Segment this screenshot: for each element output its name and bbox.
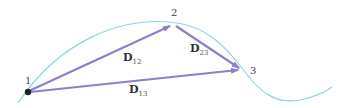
trajectory-curve bbox=[18, 22, 332, 103]
displacement-diagram: 1 2 3 D12 D23 D13 bbox=[0, 0, 345, 108]
vector-d13-label: D13 bbox=[129, 83, 147, 98]
vector-d23-arrow bbox=[176, 26, 239, 68]
diagram-svg: 1 2 3 D12 D23 D13 bbox=[0, 0, 345, 108]
vector-d23-subscript: 23 bbox=[200, 49, 209, 57]
vector-d12-subscript: 12 bbox=[133, 58, 142, 66]
vector-d23-label: D23 bbox=[190, 42, 208, 57]
vector-d23-symbol: D bbox=[190, 42, 200, 55]
point-1-label: 1 bbox=[25, 75, 31, 86]
point-1-dot bbox=[25, 89, 31, 95]
point-3-label: 3 bbox=[250, 65, 256, 76]
vector-d12-label: D12 bbox=[123, 51, 141, 66]
vector-d13-symbol: D bbox=[129, 83, 139, 96]
vector-d13-subscript: 13 bbox=[139, 90, 148, 98]
vector-d12-symbol: D bbox=[123, 51, 133, 64]
point-2-label: 2 bbox=[171, 7, 177, 18]
vector-d12-arrow bbox=[29, 26, 170, 91]
